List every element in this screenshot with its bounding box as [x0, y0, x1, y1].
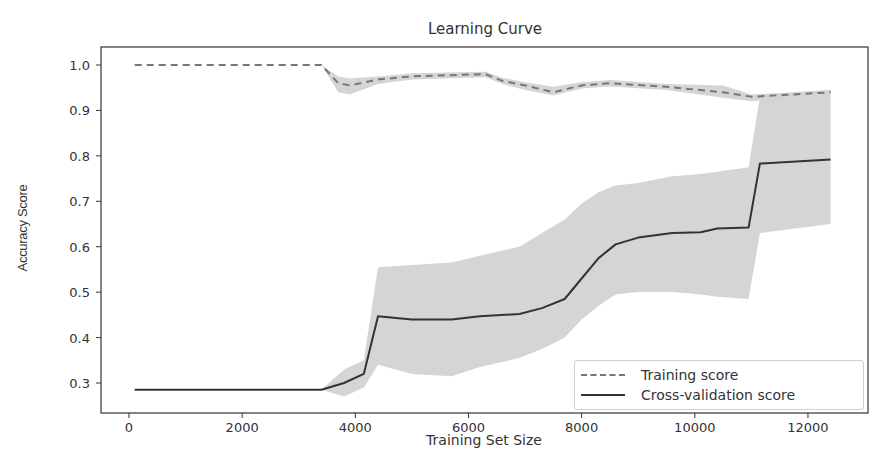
legend-label-cv: Cross-validation score — [641, 387, 795, 403]
x-tick-label: 6000 — [452, 420, 485, 435]
x-tick-label: 0 — [125, 420, 133, 435]
legend-label-training: Training score — [641, 367, 738, 383]
legend-item-training: Training score — [575, 365, 738, 385]
legend-item-cv: Cross-validation score — [575, 385, 795, 405]
solid-line-icon — [581, 394, 625, 396]
legend: Training score Cross-validation score — [574, 360, 864, 410]
x-axis-ticks: 020004000600080001000012000 — [125, 413, 829, 435]
y-tick-label: 0.5 — [69, 285, 90, 300]
cv-score-band — [135, 90, 831, 397]
x-tick-label: 4000 — [339, 420, 372, 435]
y-tick-label: 0.9 — [69, 103, 90, 118]
x-tick-label: 10000 — [674, 420, 715, 435]
x-tick-label: 2000 — [226, 420, 259, 435]
training-score-band — [135, 65, 831, 101]
y-axis-ticks: 1.00.90.80.70.60.50.40.3 — [69, 58, 101, 391]
confidence-bands — [135, 65, 831, 397]
y-tick-label: 0.6 — [69, 240, 90, 255]
y-tick-label: 0.8 — [69, 149, 90, 164]
x-tick-label: 8000 — [565, 420, 598, 435]
training-score-line — [135, 65, 831, 97]
y-tick-label: 0.4 — [69, 331, 90, 346]
y-tick-label: 0.3 — [69, 376, 90, 391]
dashed-line-icon — [581, 374, 625, 376]
x-tick-label: 12000 — [787, 420, 828, 435]
y-tick-label: 0.7 — [69, 194, 90, 209]
y-tick-label: 1.0 — [69, 58, 90, 73]
